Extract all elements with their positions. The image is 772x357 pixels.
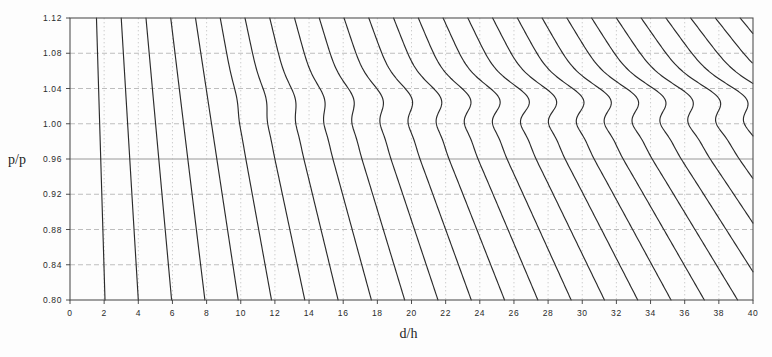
y-tick-label: 1.08 — [43, 48, 62, 58]
x-tick-label: 30 — [577, 308, 588, 318]
x-tick-label: 26 — [509, 308, 520, 318]
x-tick-label: 28 — [543, 308, 554, 318]
x-tick-label: 10 — [235, 308, 246, 318]
x-axis-tick-labels: 0246810121416182022242628303234363840 — [67, 308, 758, 318]
y-tick-label: 0.96 — [43, 154, 62, 164]
x-tick-label: 8 — [204, 308, 209, 318]
y-tick-label: 0.88 — [43, 225, 62, 235]
x-tick-label: 14 — [304, 308, 315, 318]
y-tick-label: 0.92 — [43, 189, 62, 199]
y-tick-label: 0.80 — [43, 295, 62, 305]
x-tick-label: 40 — [748, 308, 759, 318]
x-tick-label: 24 — [474, 308, 485, 318]
x-tick-label: 12 — [270, 308, 281, 318]
x-tick-label: 6 — [170, 308, 175, 318]
y-axis-tick-labels: 0.800.840.880.920.961.001.041.081.12 — [43, 13, 62, 305]
y-tick-label: 1.00 — [43, 119, 62, 129]
x-tick-label: 38 — [714, 308, 725, 318]
y-tick-label: 1.12 — [43, 13, 62, 23]
x-tick-label: 0 — [67, 308, 72, 318]
chart-svg: 0.800.840.880.920.961.001.041.081.12 024… — [0, 0, 772, 357]
chart-figure: 0.800.840.880.920.961.001.041.081.12 024… — [0, 0, 772, 357]
x-tick-label: 32 — [611, 308, 622, 318]
y-axis-title: p/p — [8, 152, 26, 167]
x-tick-label: 16 — [338, 308, 349, 318]
y-tick-label: 0.84 — [43, 260, 62, 270]
x-axis-title: d/h — [400, 326, 418, 341]
x-tick-label: 4 — [136, 308, 141, 318]
x-tick-label: 2 — [101, 308, 106, 318]
x-tick-label: 20 — [406, 308, 417, 318]
x-tick-label: 18 — [372, 308, 383, 318]
x-tick-label: 34 — [645, 308, 656, 318]
x-tick-label: 36 — [679, 308, 690, 318]
y-tick-label: 1.04 — [43, 84, 62, 94]
x-tick-label: 22 — [440, 308, 451, 318]
